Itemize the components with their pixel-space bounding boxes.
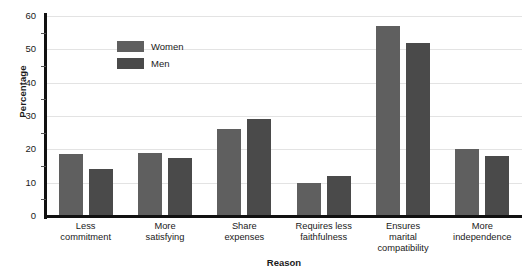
y-minor-tick <box>41 66 46 67</box>
category-label-line: faithfulness <box>284 232 363 243</box>
x-category-label: Moreindependence <box>443 221 522 243</box>
gridline <box>46 116 522 117</box>
bar-women <box>376 26 400 216</box>
y-minor-tick <box>41 133 46 134</box>
bar-men <box>89 169 113 216</box>
category-label-line: commitment <box>46 232 125 243</box>
bar-women <box>455 149 479 216</box>
bar-women <box>297 183 321 216</box>
bar-men <box>327 176 351 216</box>
x-category-label: Requires lessfaithfulness <box>284 221 363 243</box>
bar-chart: Percentage Women Men Reason 010203040506… <box>0 0 522 277</box>
x-category-label: Ensuresmaritalcompatibility <box>363 221 442 254</box>
bar-men <box>247 119 271 216</box>
y-minor-tick <box>41 99 46 100</box>
y-tick-label: 20 <box>0 143 36 154</box>
legend-swatch-men-icon <box>117 58 144 69</box>
y-axis-spine <box>44 13 47 219</box>
y-minor-tick <box>41 166 46 167</box>
x-category-label: Lesscommitment <box>46 221 125 243</box>
gridline <box>46 149 522 150</box>
x-category-label: Moresatisfying <box>125 221 204 243</box>
y-minor-tick <box>41 33 46 34</box>
x-axis-baseline <box>44 215 522 218</box>
gridline <box>46 16 522 17</box>
category-label-line: independence <box>443 232 522 243</box>
gridline <box>46 183 522 184</box>
x-axis-title: Reason <box>0 257 522 268</box>
chart-legend: Women Men <box>117 40 184 74</box>
bar-women <box>59 154 83 216</box>
category-label-line: expenses <box>205 232 284 243</box>
bar-women <box>217 129 241 216</box>
category-label-line: marital <box>363 232 442 243</box>
y-tick-label: 0 <box>0 210 36 221</box>
gridline <box>46 83 522 84</box>
category-label-line: Less <box>46 221 125 232</box>
y-tick-label: 40 <box>0 77 36 88</box>
category-label-line: More <box>125 221 204 232</box>
category-label-line: Share <box>205 221 284 232</box>
y-tick-label: 60 <box>0 10 36 21</box>
category-label-line: Ensures <box>363 221 442 232</box>
bar-men <box>168 158 192 216</box>
bar-women <box>138 153 162 216</box>
y-tick-label: 10 <box>0 177 36 188</box>
legend-item-women: Women <box>117 40 184 53</box>
x-category-label: Shareexpenses <box>205 221 284 243</box>
y-tick-label: 50 <box>0 43 36 54</box>
legend-item-men: Men <box>117 57 184 70</box>
legend-swatch-women-icon <box>117 41 144 52</box>
category-label-line: More <box>443 221 522 232</box>
bar-men <box>485 156 509 216</box>
category-label-line: satisfying <box>125 232 204 243</box>
y-minor-tick <box>41 199 46 200</box>
legend-label-men: Men <box>151 58 169 69</box>
y-tick-label: 30 <box>0 110 36 121</box>
category-label-line: compatibility <box>363 243 442 254</box>
category-label-line: Requires less <box>284 221 363 232</box>
bar-men <box>406 43 430 216</box>
legend-label-women: Women <box>151 41 184 52</box>
